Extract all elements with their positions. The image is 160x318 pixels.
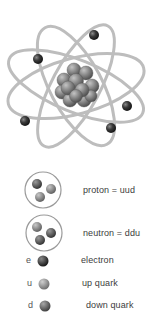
legend-proton: proton = uud xyxy=(0,170,160,210)
electron-letter: e xyxy=(26,255,31,265)
neutron-label: neutron = ddu xyxy=(83,228,140,238)
electron-label: electron xyxy=(81,255,114,265)
up-quark-letter: u xyxy=(27,278,32,288)
up-quark-icon xyxy=(37,277,51,291)
legend-up-quark: u up quark xyxy=(0,277,160,291)
neutron-icon xyxy=(24,213,64,253)
down-quark-label: down quark xyxy=(86,300,134,310)
electron-5 xyxy=(106,123,116,133)
electron-3 xyxy=(122,101,132,111)
down-quark-icon xyxy=(38,299,52,313)
electron-2 xyxy=(33,54,43,64)
electron-4 xyxy=(20,116,30,126)
legend-neutron: neutron = ddu xyxy=(0,213,160,253)
nucleus xyxy=(55,63,99,107)
up-quark-label: up quark xyxy=(82,278,118,288)
proton-label: proton = uud xyxy=(83,185,135,195)
atom-diagram xyxy=(0,0,160,160)
legend-down-quark: d down quark xyxy=(0,299,160,313)
electron-icon xyxy=(36,254,50,268)
proton-icon xyxy=(23,170,63,210)
legend-electron: e electron xyxy=(0,254,160,268)
electron-1 xyxy=(89,30,99,40)
down-quark-letter: d xyxy=(28,300,33,310)
